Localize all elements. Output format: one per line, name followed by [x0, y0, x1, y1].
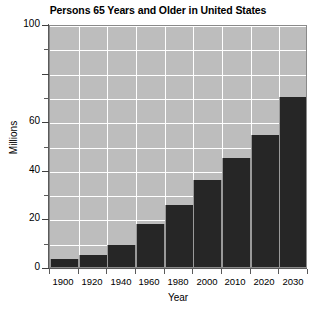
- x-axis-tick: [164, 269, 165, 274]
- bar-1960: [136, 224, 165, 267]
- y-axis-tick-label-100: 100: [0, 18, 40, 29]
- y-axis-title: Millions: [8, 108, 19, 168]
- y-axis-tick-major: [42, 219, 49, 220]
- y-axis-tick-minor: [44, 195, 49, 196]
- y-axis-tick-labels: 0204060100: [0, 0, 40, 322]
- x-axis-tick: [250, 269, 251, 274]
- y-axis-tick-minor: [44, 49, 49, 50]
- x-axis-tick: [49, 269, 50, 274]
- y-axis-tick-minor: [44, 147, 49, 148]
- bar-1900: [50, 259, 79, 267]
- y-axis-tick-major: [42, 171, 49, 172]
- x-axis-tick: [192, 269, 193, 274]
- bar-2010: [222, 158, 251, 267]
- y-axis-tick-major: [42, 122, 49, 123]
- y-axis-tick-label-40: 40: [0, 164, 40, 175]
- y-axis-tick-major: [42, 268, 49, 269]
- bar-chart-figure: Persons 65 Years and Older in United Sta…: [0, 0, 316, 322]
- y-axis-tick-major: [42, 25, 49, 26]
- bar-2020: [251, 135, 280, 267]
- x-axis-tick: [78, 269, 79, 274]
- x-axis-line: [48, 268, 307, 269]
- bar-1980: [165, 205, 194, 267]
- bar-2000: [193, 180, 222, 267]
- y-axis-tick-label-0: 0: [0, 261, 40, 272]
- bar-1920: [79, 255, 108, 267]
- x-axis-tick: [278, 269, 279, 274]
- y-axis-tick-label-60: 60: [0, 115, 40, 126]
- y-axis-tick-major: [42, 74, 49, 75]
- y-axis-tick-label-20: 20: [0, 212, 40, 223]
- x-axis-tick: [307, 269, 308, 274]
- chart-title: Persons 65 Years and Older in United Sta…: [0, 4, 316, 16]
- x-axis-tick: [106, 269, 107, 274]
- bars-series: [50, 26, 306, 267]
- plot-area: [49, 25, 307, 268]
- bar-2030: [279, 97, 307, 267]
- x-axis-title: Year: [49, 292, 307, 303]
- y-axis-tick-minor: [44, 244, 49, 245]
- x-axis-tick: [221, 269, 222, 274]
- x-axis-tick-label-2030: 2030: [273, 276, 313, 287]
- y-axis-tick-minor: [44, 98, 49, 99]
- x-axis-tick: [135, 269, 136, 274]
- bar-1940: [107, 245, 136, 267]
